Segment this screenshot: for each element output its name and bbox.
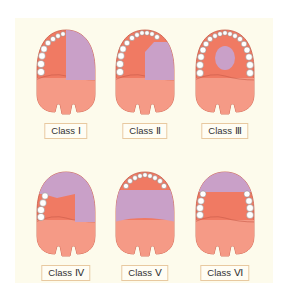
class-5-arch-diagram <box>114 170 176 262</box>
class-4-label: Class Ⅳ <box>41 265 90 281</box>
class-2-label: Class Ⅱ <box>122 123 167 139</box>
class-6-label: Class Ⅵ <box>200 265 249 281</box>
class-5-label: Class Ⅴ <box>121 265 168 281</box>
class-3-arch-diagram <box>194 28 256 120</box>
class-5-figure: Class Ⅴ <box>102 170 188 262</box>
class-2-arch-diagram <box>114 28 176 120</box>
class-2-figure: Class Ⅱ <box>102 28 188 120</box>
class-1-label: Class Ⅰ <box>44 123 87 139</box>
class-6-arch-diagram <box>194 170 256 262</box>
class-3-label: Class Ⅲ <box>201 123 248 139</box>
class-1-arch-diagram <box>35 28 97 120</box>
class-4-figure: Class Ⅳ <box>23 170 109 262</box>
class-3-figure: Class Ⅲ <box>182 28 268 120</box>
class-6-figure: Class Ⅵ <box>182 170 268 262</box>
class-1-figure: Class Ⅰ <box>23 28 109 120</box>
class-4-arch-diagram <box>35 170 97 262</box>
